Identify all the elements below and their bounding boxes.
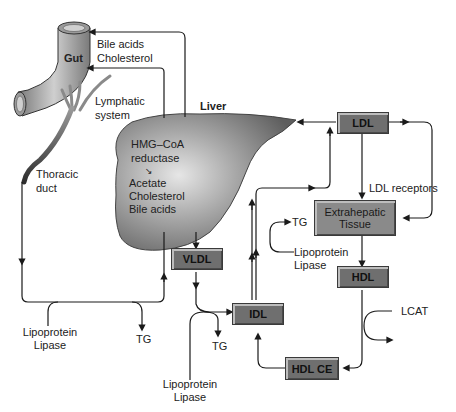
lymphatic-label-line1: Lymphatic [95,95,145,108]
tg-label-middle: TG [212,340,227,353]
acetate-label: Acetate [129,177,166,190]
gut-label: Gut [64,52,83,65]
ldl-receptors-label: LDL receptors [369,182,438,195]
gut-input-cholesterol: Cholesterol [97,52,153,65]
cholesterol-label: Cholesterol [129,190,185,203]
lipase-right-line1: Lipoprotein [294,246,348,259]
extrahepatic-label-line1: Extrahepatic [324,206,385,218]
lymphatic-label-line2: system [95,109,130,122]
lcat-label: LCAT [401,305,428,318]
extrahepatic-label-line2: Tissue [339,218,371,230]
tg-label-right: TG [292,216,307,229]
liver-bile-acids-label: Bile acids [129,203,176,216]
lipase-middle-line2: Lipase [160,391,220,404]
cropped-caption [6,404,450,412]
hdl-ce-box: HDL CE [285,357,339,380]
liver-label: Liver [200,100,226,113]
thoracic-duct-label-line2: duct [36,182,57,195]
ldl-box: LDL [337,112,389,134]
hmg-coa-label: HMG–CoA [131,138,184,151]
gut-input-bile-acids: Bile acids [97,38,144,51]
lipase-right-line2: Lipase [294,259,326,272]
extrahepatic-tissue-box: Extrahepatic Tissue [314,200,396,236]
reductase-label: reductase [131,152,179,165]
tg-label-left: TG [136,333,151,346]
lipase-middle-line1: Lipoprotein [160,378,220,391]
lipase-left-line2: Lipase [20,339,80,352]
vldl-box: VLDL [171,248,223,270]
thoracic-duct-label-line1: Thoracic [36,168,78,181]
lipase-left-line1: Lipoprotein [20,326,80,339]
idl-box: IDL [232,303,284,325]
hdl-box: HDL [337,266,389,288]
